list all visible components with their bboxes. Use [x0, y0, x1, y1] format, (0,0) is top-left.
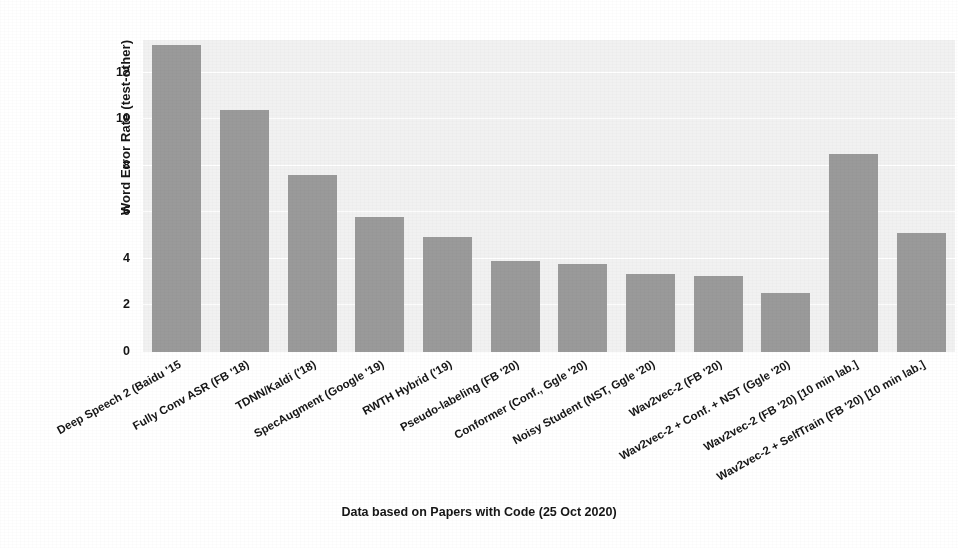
bar-chart-figure: Word Error Rate (test-other) 024681012 D… — [0, 0, 958, 548]
x-axis-tick-labels: Deep Speech 2 (Baidu '15Fully Conv ASR (… — [0, 0, 958, 548]
chart-caption: Data based on Papers with Code (25 Oct 2… — [0, 505, 958, 519]
